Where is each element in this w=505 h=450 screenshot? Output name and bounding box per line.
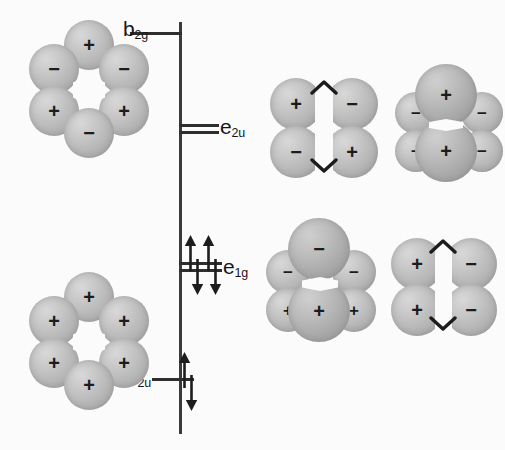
node-chevron-icon [429, 238, 457, 254]
orbital-e2u-b: − − − − + + [393, 64, 505, 184]
level-label-e2u-sub: 2u [231, 126, 245, 140]
orbital-lobe: − [64, 108, 114, 158]
level-label-e1g: e1g [223, 256, 248, 279]
energy-level-e2u-line1 [179, 124, 219, 127]
electron-arrow-down [185, 375, 198, 411]
orbital-lobe: + [64, 360, 114, 410]
lobe-sign: + [415, 64, 477, 126]
level-label-e1g-main: e [223, 255, 234, 278]
lobe-sign: − [64, 108, 114, 158]
lobe-sign: − [288, 218, 350, 280]
electron-arrow-down [209, 259, 222, 295]
mo-energy-diagram: b2g e2u e1g [0, 0, 505, 450]
orbital-lobe: − [288, 218, 350, 280]
level-label-e2u-main: e [220, 115, 231, 138]
node-chevron-icon [310, 79, 338, 95]
orbital-b2g: + − − + + − [22, 20, 156, 162]
level-label-e2u: e2u [220, 116, 245, 139]
energy-level-e2u-line2 [179, 131, 219, 134]
orbital-a2u: + + + + + + [22, 272, 156, 414]
node-chevron-icon [429, 316, 457, 332]
level-label-e1g-sub: 1g [234, 266, 248, 280]
orbital-e2u-a: + − − + [270, 78, 380, 182]
lobe-sign: + [64, 360, 114, 410]
node-chevron-icon [310, 158, 338, 174]
orbital-e1g-b: + − + − [391, 238, 499, 340]
orbital-e1g-a: − − + + − + [264, 222, 378, 344]
orbital-lobe: + [415, 64, 477, 126]
